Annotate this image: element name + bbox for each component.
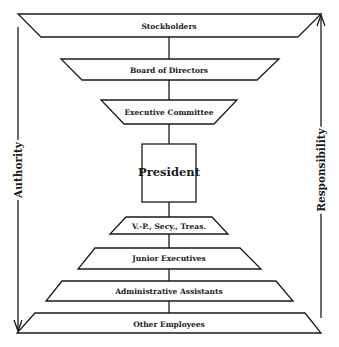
level-stockholders: Stockholders: [141, 22, 196, 31]
level-board-of-directors: Board of Directors: [130, 66, 208, 75]
level-administrative-assistants: Administrative Assistants: [115, 287, 223, 296]
level-vp-secy-treas: V.-P., Secy., Treas.: [132, 222, 206, 231]
level-president: President: [138, 165, 200, 179]
responsibility-label: Responsibility: [315, 126, 327, 213]
level-junior-executives: Junior Executives: [132, 254, 206, 263]
authority-label: Authority: [12, 140, 24, 200]
level-executive-committee: Executive Committee: [124, 108, 213, 117]
level-other-employees: Other Employees: [133, 320, 205, 329]
